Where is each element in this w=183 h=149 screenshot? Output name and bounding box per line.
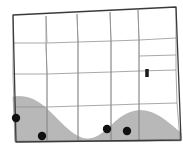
locality-dot-locality-2 [38, 132, 46, 140]
locality-dot-locality-3 [103, 125, 111, 133]
boundary-tick-1 [145, 69, 149, 77]
locality-dot-locality-1 [12, 114, 20, 122]
locality-dot-locality-4 [123, 127, 131, 135]
distribution-map-figure: Wyoming shaded range collection locality… [0, 0, 183, 149]
map-canvas [0, 0, 183, 149]
boundary-tick-layer [145, 69, 149, 77]
